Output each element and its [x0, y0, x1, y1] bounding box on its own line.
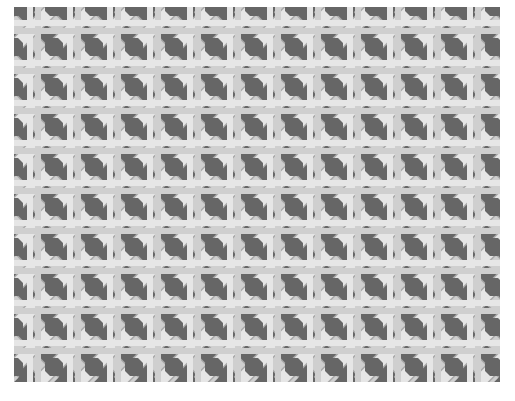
octagonal-hole — [245, 358, 263, 376]
octagonal-hole — [45, 318, 63, 336]
octagonal-hole — [165, 78, 183, 96]
octagonal-hole — [325, 238, 343, 256]
octagonal-hole — [325, 278, 343, 296]
octagonal-hole — [445, 118, 463, 136]
octagonal-hole — [365, 38, 383, 56]
octagonal-hole — [445, 78, 463, 96]
octagonal-hole — [205, 198, 223, 216]
octagonal-hole — [165, 118, 183, 136]
octagonal-hole — [45, 158, 63, 176]
horizontal-strand — [14, 180, 500, 186]
octagonal-hole — [325, 158, 343, 176]
octagonal-hole — [85, 278, 103, 296]
octagonal-hole — [285, 118, 303, 136]
octagonal-hole — [45, 198, 63, 216]
octagonal-hole — [205, 358, 223, 376]
octagonal-hole — [405, 38, 423, 56]
horizontal-strand — [14, 300, 500, 306]
octagonal-hole — [245, 198, 263, 216]
octagonal-hole — [245, 118, 263, 136]
octagonal-hole — [245, 38, 263, 56]
octagonal-hole — [285, 158, 303, 176]
octagonal-hole — [445, 38, 463, 56]
octagonal-hole — [405, 78, 423, 96]
horizontal-strand — [14, 108, 500, 114]
octagonal-hole — [245, 318, 263, 336]
horizontal-strand — [14, 188, 500, 194]
octagonal-hole — [125, 118, 143, 136]
octagonal-hole — [205, 78, 223, 96]
octagonal-hole — [405, 278, 423, 296]
octagonal-hole — [45, 38, 63, 56]
octagonal-hole — [45, 238, 63, 256]
octagonal-hole — [445, 318, 463, 336]
octagonal-hole — [405, 158, 423, 176]
horizontal-strand — [14, 60, 500, 66]
horizontal-strand — [14, 28, 500, 34]
octagonal-hole — [365, 118, 383, 136]
octagonal-hole — [405, 238, 423, 256]
octagonal-hole — [85, 358, 103, 376]
octagonal-hole — [285, 278, 303, 296]
octagonal-hole — [405, 118, 423, 136]
octagonal-hole — [365, 158, 383, 176]
octagonal-hole — [165, 358, 183, 376]
octagonal-hole — [405, 198, 423, 216]
horizontal-strand — [14, 140, 500, 146]
octagonal-hole — [285, 318, 303, 336]
octagonal-hole — [165, 278, 183, 296]
octagonal-hole — [405, 318, 423, 336]
octagonal-hole — [125, 358, 143, 376]
octagonal-hole — [165, 318, 183, 336]
octagonal-hole — [365, 78, 383, 96]
octagonal-hole — [85, 318, 103, 336]
cane-weave-pattern — [14, 7, 500, 382]
octagonal-hole — [165, 198, 183, 216]
octagonal-hole — [205, 118, 223, 136]
horizontal-strand — [14, 68, 500, 74]
horizontal-strand — [14, 220, 500, 226]
horizontal-strand — [14, 100, 500, 106]
octagonal-hole — [125, 278, 143, 296]
octagonal-hole — [285, 358, 303, 376]
horizontal-strand — [14, 268, 500, 274]
octagonal-hole — [85, 38, 103, 56]
octagonal-hole — [325, 78, 343, 96]
octagonal-hole — [405, 358, 423, 376]
octagonal-hole — [205, 38, 223, 56]
horizontal-strand — [14, 260, 500, 266]
octagonal-hole — [125, 198, 143, 216]
octagonal-hole — [165, 238, 183, 256]
octagonal-hole — [365, 318, 383, 336]
octagonal-hole — [365, 358, 383, 376]
octagonal-hole — [205, 278, 223, 296]
octagonal-hole — [325, 318, 343, 336]
octagonal-hole — [205, 318, 223, 336]
octagonal-hole — [85, 118, 103, 136]
octagonal-hole — [205, 238, 223, 256]
horizontal-strand — [14, 228, 500, 234]
horizontal-strand — [14, 340, 500, 346]
octagonal-hole — [165, 158, 183, 176]
horizontal-strand — [14, 348, 500, 354]
octagonal-hole — [125, 158, 143, 176]
octagonal-hole — [365, 278, 383, 296]
octagonal-hole — [285, 38, 303, 56]
octagonal-hole — [125, 238, 143, 256]
octagonal-hole — [245, 278, 263, 296]
octagonal-hole — [285, 238, 303, 256]
octagonal-hole — [445, 198, 463, 216]
octagonal-hole — [85, 198, 103, 216]
octagonal-hole — [325, 198, 343, 216]
octagonal-hole — [285, 78, 303, 96]
octagonal-hole — [325, 358, 343, 376]
octagonal-hole — [205, 158, 223, 176]
octagonal-hole — [365, 198, 383, 216]
octagonal-hole — [45, 358, 63, 376]
octagonal-hole — [285, 198, 303, 216]
horizontal-strand — [14, 20, 500, 26]
octagonal-hole — [125, 78, 143, 96]
octagonal-hole — [325, 118, 343, 136]
horizontal-strand — [14, 148, 500, 154]
octagonal-hole — [445, 278, 463, 296]
